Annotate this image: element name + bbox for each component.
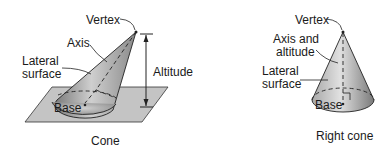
label-right-axis-2: altitude — [276, 45, 315, 59]
oblique-cone-figure: Vertex Axis Lateral surface Base Altitud… — [22, 13, 193, 148]
label-lateral-2: surface — [22, 67, 62, 81]
label-right-vertex: Vertex — [295, 13, 329, 27]
label-right-lateral-1: Lateral — [262, 64, 299, 78]
label-right-lateral-2: surface — [262, 77, 302, 91]
caption-cone: Cone — [91, 134, 120, 148]
base-center-point — [84, 104, 87, 107]
label-axis: Axis — [67, 36, 90, 50]
label-altitude: Altitude — [153, 65, 193, 79]
label-base: Base — [54, 101, 82, 115]
right-cone-figure: Vertex Axis and altitude Lateral surface… — [262, 13, 374, 143]
label-vertex: Vertex — [86, 13, 120, 27]
label-right-axis-1: Axis and — [273, 32, 319, 46]
label-lateral-1: Lateral — [22, 54, 59, 68]
caption-right-cone: Right cone — [316, 129, 374, 143]
cones-diagram: Vertex Axis Lateral surface Base Altitud… — [0, 0, 386, 154]
vertex-point — [135, 31, 138, 34]
label-right-base: Base — [315, 98, 343, 112]
